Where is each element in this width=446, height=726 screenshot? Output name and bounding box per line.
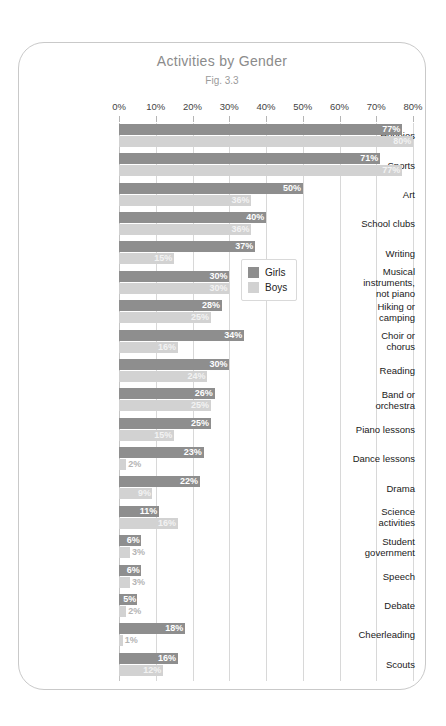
bar-value-boys: 3% [132, 547, 145, 558]
x-tick-mark [266, 116, 267, 122]
bar-value-girls: 77% [382, 124, 400, 135]
bar-boys [119, 635, 123, 646]
bar-row: Choir orchorus34%16% [25, 329, 421, 358]
bar-pair: 26%25% [119, 387, 421, 416]
x-tick-label: 30% [220, 101, 239, 112]
bar-pair: 6%3% [119, 564, 421, 593]
bar-pair: 30%24% [119, 358, 421, 387]
bar-value-boys: 24% [187, 371, 205, 382]
bar-row: Scienceactivities11%16% [25, 505, 421, 534]
bar-pair: 18%1% [119, 622, 421, 651]
bar-value-girls: 25% [191, 418, 209, 429]
bar-boys [119, 577, 130, 588]
bar-boys [119, 606, 126, 617]
bar-pair: 25%15% [119, 417, 421, 446]
bar-value-boys: 16% [158, 518, 176, 529]
bar-boys [119, 136, 413, 147]
bar-row: Piano lessons25%15% [25, 417, 421, 446]
bar-value-girls: 16% [158, 653, 176, 664]
bar-value-girls: 37% [235, 241, 253, 252]
bar-row: Scouts16%12% [25, 652, 421, 681]
bar-value-girls: 34% [224, 330, 242, 341]
bar-girls [119, 183, 303, 194]
x-tick-label: 60% [330, 101, 349, 112]
bar-value-girls: 30% [209, 359, 227, 370]
bar-value-girls: 6% [127, 565, 140, 576]
bar-value-girls: 22% [180, 476, 198, 487]
bar-boys [119, 165, 402, 176]
legend-label: Girls [265, 267, 286, 278]
bar-row: Studentgovernment6%3% [25, 534, 421, 563]
bar-pair: 6%3% [119, 534, 421, 563]
chart-title: Activities by Gender [19, 53, 425, 69]
x-tick-label: 70% [367, 101, 386, 112]
bar-value-girls: 50% [283, 183, 301, 194]
x-tick-mark [413, 116, 414, 122]
x-tick-mark [340, 116, 341, 122]
legend-swatch-icon [248, 267, 259, 278]
x-tick-label: 40% [256, 101, 275, 112]
bar-pair: 5%2% [119, 593, 421, 622]
chart-card: Activities by Gender Fig. 3.3 0%10%20%30… [18, 42, 426, 690]
bar-row: Band ororchestra26%25% [25, 387, 421, 416]
legend-item-girls[interactable]: Girls [248, 265, 287, 280]
bar-value-girls: 28% [202, 300, 220, 311]
x-tick-mark [303, 116, 304, 122]
bar-value-boys: 2% [128, 606, 141, 617]
bar-row: Drama22%9% [25, 475, 421, 504]
bar-value-girls: 40% [246, 212, 264, 223]
x-tick-mark [229, 116, 230, 122]
bar-girls [119, 153, 380, 164]
bar-value-boys: 2% [128, 459, 141, 470]
bar-pair: 11%16% [119, 505, 421, 534]
bar-pair: 22%9% [119, 475, 421, 504]
bar-pair: 34%16% [119, 329, 421, 358]
bar-value-girls: 5% [123, 594, 136, 605]
bar-value-boys: 36% [232, 224, 250, 235]
chart-subtitle: Fig. 3.3 [19, 75, 425, 86]
x-tick-label: 80% [403, 101, 422, 112]
bar-girls [119, 212, 266, 223]
x-tick-label: 20% [183, 101, 202, 112]
bar-row: Musicalinstruments,not piano30%30% [25, 270, 421, 299]
bar-row: School clubs40%36% [25, 211, 421, 240]
bar-boys [119, 459, 126, 470]
legend-item-boys[interactable]: Boys [248, 280, 287, 295]
bar-value-boys: 16% [158, 342, 176, 353]
bar-value-girls: 30% [209, 271, 227, 282]
bar-value-girls: 26% [195, 388, 213, 399]
bar-value-girls: 6% [127, 535, 140, 546]
bar-row: Hobbies77%80% [25, 123, 421, 152]
bar-value-boys: 25% [191, 312, 209, 323]
bar-value-girls: 23% [184, 447, 202, 458]
bar-row: Sports71%77% [25, 152, 421, 181]
legend-label: Boys [265, 282, 287, 293]
bar-pair: 23%2% [119, 446, 421, 475]
bar-value-boys: 1% [125, 635, 138, 646]
bar-rows: Hobbies77%80%Sports71%77%Art50%36%School… [25, 123, 421, 681]
x-tick-mark [119, 116, 120, 122]
bar-row: Art50%36% [25, 182, 421, 211]
bar-row: Hiking orcamping28%25% [25, 299, 421, 328]
bar-row: Reading30%24% [25, 358, 421, 387]
bar-value-girls: 11% [140, 506, 158, 517]
x-tick-mark [376, 116, 377, 122]
bar-row: Debate5%2% [25, 593, 421, 622]
x-tick-mark [193, 116, 194, 122]
bar-row: Speech6%3% [25, 564, 421, 593]
plot-area: 0%10%20%30%40%50%60%70%80% Hobbies77%80%… [25, 101, 421, 681]
bar-pair: 50%36% [119, 182, 421, 211]
x-axis: 0%10%20%30%40%50%60%70%80% [25, 101, 421, 123]
bar-pair: 28%25% [119, 299, 421, 328]
bar-value-boys: 30% [209, 283, 227, 294]
bar-pair: 71%77% [119, 152, 421, 181]
bar-value-girls: 71% [360, 153, 378, 164]
bar-row: Dance lessons23%2% [25, 446, 421, 475]
bar-boys [119, 547, 130, 558]
chart-legend: GirlsBoys [241, 259, 297, 301]
bar-pair: 16%12% [119, 652, 421, 681]
bar-pair: 77%80% [119, 123, 421, 152]
bar-value-boys: 3% [132, 577, 145, 588]
bar-value-boys: 15% [154, 430, 172, 441]
bar-row: Cheerleading18%1% [25, 622, 421, 651]
